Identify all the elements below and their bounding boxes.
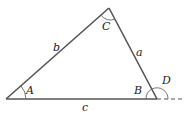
label-c: c (82, 101, 88, 114)
angle-B-arc (146, 89, 152, 99)
label-D: D (161, 74, 171, 87)
label-B: B (133, 84, 142, 97)
label-C: C (102, 20, 111, 33)
triangle-diagram: A B C D a b c (0, 0, 184, 119)
label-A: A (25, 84, 34, 97)
label-a: a (136, 46, 143, 59)
label-b: b (53, 41, 60, 54)
side-a (109, 8, 157, 99)
